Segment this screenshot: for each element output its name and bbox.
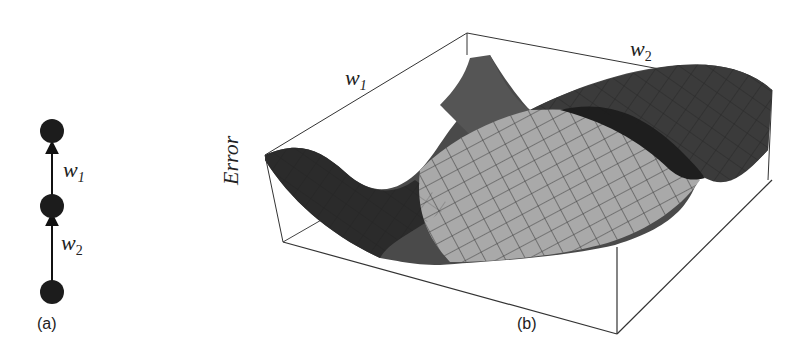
- axis-w2-base: w: [630, 36, 645, 61]
- middle-node: [40, 194, 64, 218]
- top-node: [40, 119, 64, 143]
- figure-canvas: [0, 0, 802, 359]
- axis-label-error: Error: [218, 136, 244, 185]
- w2-base: w: [61, 230, 76, 255]
- caption-b: (b): [517, 315, 537, 333]
- axis-w1-sub: 1: [360, 78, 367, 93]
- error-surface-plot: [265, 33, 772, 334]
- axis-w1-base: w: [345, 65, 360, 90]
- axis-label-w2: w2: [630, 36, 652, 65]
- axis-w2-sub: 2: [645, 49, 652, 64]
- label-w2: w2: [61, 230, 83, 259]
- w2-sub: 2: [76, 243, 83, 258]
- caption-a: (a): [37, 315, 57, 333]
- axis-label-w1: w1: [345, 65, 367, 94]
- w1-base: w: [63, 157, 78, 182]
- w1-sub: 1: [78, 170, 85, 185]
- network-diagram: [40, 119, 64, 304]
- label-w1: w1: [63, 157, 85, 186]
- bottom-node: [40, 280, 64, 304]
